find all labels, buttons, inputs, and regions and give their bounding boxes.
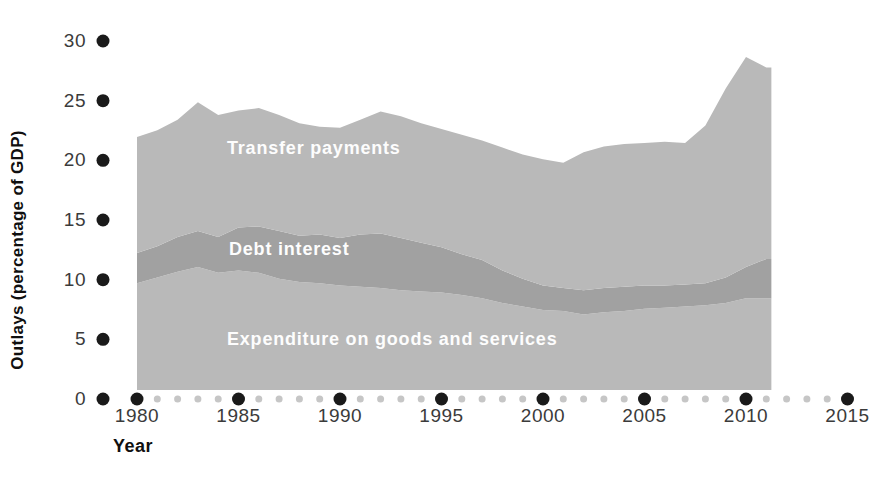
y-tick-label: 25 bbox=[28, 89, 86, 113]
y-tick-dot bbox=[97, 333, 110, 346]
x-minor-tick-dot bbox=[316, 396, 323, 403]
x-minor-tick-dot bbox=[194, 396, 201, 403]
x-tick-label: 1995 bbox=[407, 404, 477, 428]
x-minor-tick-dot bbox=[397, 396, 404, 403]
x-minor-tick-dot bbox=[824, 396, 831, 403]
x-minor-tick-dot bbox=[154, 396, 161, 403]
y-tick-dot bbox=[97, 273, 110, 286]
y-tick-dot bbox=[97, 35, 110, 48]
x-minor-tick-dot bbox=[621, 396, 628, 403]
x-minor-tick-dot bbox=[377, 396, 384, 403]
x-minor-tick-dot bbox=[458, 396, 465, 403]
y-tick-dot bbox=[97, 214, 110, 227]
x-minor-tick-dot bbox=[519, 396, 526, 403]
y-axis-title: Outlays (percentage of GDP) bbox=[8, 100, 32, 400]
x-minor-tick-dot bbox=[276, 396, 283, 403]
x-minor-tick-dot bbox=[803, 396, 810, 403]
x-tick-label: 2000 bbox=[508, 404, 578, 428]
x-minor-tick-dot bbox=[580, 396, 587, 403]
x-minor-tick-dot bbox=[479, 396, 486, 403]
y-tick-dot bbox=[97, 94, 110, 107]
y-tick-dot bbox=[97, 154, 110, 167]
x-minor-tick-dot bbox=[682, 396, 689, 403]
y-tick-label: 30 bbox=[28, 29, 86, 53]
x-tick-label: 2010 bbox=[711, 404, 781, 428]
y-tick-label: 5 bbox=[28, 327, 86, 351]
x-minor-tick-dot bbox=[560, 396, 567, 403]
y-tick-label: 10 bbox=[28, 268, 86, 292]
x-minor-tick-dot bbox=[215, 396, 222, 403]
x-minor-tick-dot bbox=[702, 396, 709, 403]
y-tick-label: 0 bbox=[28, 387, 86, 411]
x-minor-tick-dot bbox=[763, 396, 770, 403]
x-tick-label: 1980 bbox=[102, 404, 172, 428]
x-minor-tick-dot bbox=[255, 396, 262, 403]
x-minor-tick-dot bbox=[174, 396, 181, 403]
label-transfer-payments: Transfer payments bbox=[227, 138, 401, 159]
chart-figure: Outlays (percentage of GDP) Year Transfe… bbox=[0, 0, 894, 480]
x-minor-tick-dot bbox=[600, 396, 607, 403]
x-minor-tick-dot bbox=[783, 396, 790, 403]
x-tick-label: 1985 bbox=[204, 404, 274, 428]
label-expenditure-goods-services: Expenditure on goods and services bbox=[227, 329, 557, 350]
x-minor-tick-dot bbox=[722, 396, 729, 403]
x-tick-label: 1990 bbox=[305, 404, 375, 428]
label-debt-interest: Debt interest bbox=[229, 239, 349, 260]
x-minor-tick-dot bbox=[296, 396, 303, 403]
y-tick-label: 20 bbox=[28, 148, 86, 172]
x-axis-title: Year bbox=[113, 436, 153, 457]
x-tick-label: 2015 bbox=[813, 404, 883, 428]
x-minor-tick-dot bbox=[357, 396, 364, 403]
x-minor-tick-dot bbox=[661, 396, 668, 403]
y-tick-label: 15 bbox=[28, 208, 86, 232]
x-tick-label: 2005 bbox=[610, 404, 680, 428]
x-minor-tick-dot bbox=[499, 396, 506, 403]
x-minor-tick-dot bbox=[418, 396, 425, 403]
